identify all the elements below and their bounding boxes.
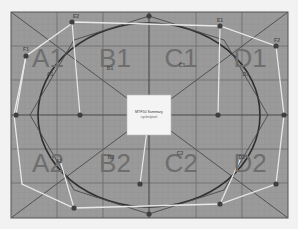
marker-point	[215, 112, 220, 117]
marker-point	[281, 112, 286, 117]
quadrant-label: B1	[99, 43, 131, 73]
marker-point	[146, 211, 151, 216]
marker-label: C2	[177, 150, 184, 156]
marker-point	[273, 181, 278, 186]
marker-label: B1	[107, 65, 114, 71]
quadrant-label: B2	[99, 148, 131, 178]
center-info-box: MTF50 Summary cycles/pixel	[127, 95, 171, 135]
marker-point	[217, 201, 222, 206]
marker-label: E2	[73, 13, 79, 19]
marker-label: B2	[108, 154, 115, 160]
marker-point	[273, 43, 278, 48]
quadrant-label: A1	[32, 43, 64, 73]
chart-canvas: A1 B1 C1 D1 A2 B2 C2 D2 A1 B1 C1 D1 A2 B…	[0, 0, 298, 229]
info-box-line2: cycles/pixel	[141, 115, 158, 119]
marker-point	[23, 53, 28, 58]
marker-point	[13, 112, 18, 117]
marker-label: A2	[56, 158, 63, 164]
marker-point	[137, 181, 142, 186]
marker-label: E1	[217, 17, 223, 23]
marker-label: A1	[47, 71, 54, 77]
marker-label: F1	[23, 46, 29, 52]
calibration-chart-svg: A1 B1 C1 D1 A2 B2 C2 D2 A1 B1 C1 D1 A2 B…	[0, 0, 298, 229]
marker-point	[77, 112, 82, 117]
marker-label: D2	[239, 154, 246, 160]
marker-point	[71, 205, 76, 210]
quadrant-label: C1	[164, 43, 197, 73]
marker-point	[146, 13, 151, 18]
quadrant-label: D1	[233, 43, 266, 73]
marker-label: D1	[243, 71, 250, 77]
quadrant-label: D2	[233, 148, 266, 178]
marker-label: F2	[274, 37, 280, 43]
info-box-line1: MTF50 Summary	[135, 110, 163, 114]
marker-point	[69, 19, 74, 24]
marker-point	[217, 23, 222, 28]
marker-label: C1	[179, 62, 186, 68]
